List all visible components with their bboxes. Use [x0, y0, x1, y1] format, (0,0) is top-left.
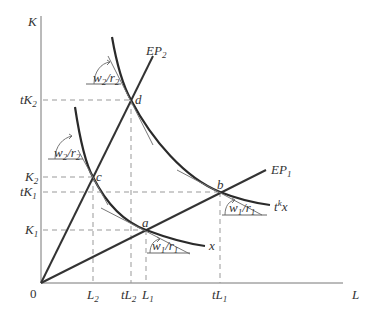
point-a-label: a — [142, 215, 149, 230]
tick-l1: L1 — [141, 287, 154, 304]
tick-l2: L2 — [86, 287, 99, 304]
guide-lines — [43, 100, 220, 283]
tick-tl1: tL1 — [212, 287, 227, 304]
y-tick-labels: tK2 K2 tK1 K1 — [20, 92, 39, 239]
origin-label: 0 — [30, 286, 37, 301]
ep2-label: EP2 — [145, 43, 167, 60]
expansion-path-1 — [41, 170, 266, 283]
isoquant-x-label: x — [208, 238, 215, 253]
price-ratio-c: w2/r2 — [54, 145, 81, 162]
point-c-label: c — [96, 169, 102, 184]
price-ratio-markers: w2/r2 w2/r2 w1/r1 w1/r1 — [48, 60, 267, 255]
isoquant-tkx-label: tkx — [274, 198, 288, 214]
tick-tk2: tK2 — [20, 92, 37, 109]
point-d-label: d — [135, 92, 142, 107]
tick-tk1: tK1 — [20, 184, 37, 201]
diagram-canvas: K L 0 EP2 EP1 x tkx — [0, 0, 382, 316]
l-axis-label: L — [351, 287, 359, 302]
x-tick-labels: L2 tL2 L1 tL1 — [86, 287, 227, 304]
ep1-label: EP1 — [270, 162, 291, 179]
k-axis-label: K — [27, 14, 38, 29]
tick-tl2: tL2 — [121, 287, 137, 304]
point-b-label: b — [217, 177, 224, 192]
tick-k1: K1 — [24, 222, 38, 239]
